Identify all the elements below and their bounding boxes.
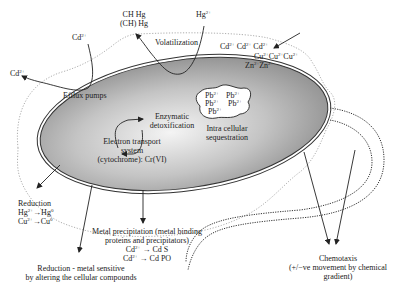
reduction-sensitive-line2: by altering the cellular compounds <box>18 273 144 282</box>
zn-ion: Zn <box>259 61 268 70</box>
ion-charge: 2+ <box>135 245 140 250</box>
metal-ions-row-zn: Zn2+Zn2+ <box>245 61 273 70</box>
cd-symbol: Cd <box>10 69 19 78</box>
ion-charge: 2+ <box>234 91 239 96</box>
ets-line3: (cytochrome): Cr(VI) <box>92 155 172 164</box>
ets-line2: system <box>92 146 172 155</box>
chemotaxis-line2: (+/−ve movement by chemical <box>286 263 390 272</box>
cu-symbol: Cu <box>18 217 27 226</box>
chemotaxis-line1: Chemotaxis <box>286 254 390 263</box>
cd-efflux-output-label: Cd2+ <box>10 69 25 78</box>
precipitation-cds-equation: Cd2+ → Cd S <box>92 245 202 254</box>
metal-ions-row-cu: Cu2+Cu2+Cu2+ <box>254 52 298 61</box>
pb-ion: Pb2+ <box>228 99 242 108</box>
intracellular-sequestration-label: Intra cellular sequestration <box>196 124 258 142</box>
chemotaxis-arrow-left <box>304 152 329 244</box>
precipitation-line2: proteins and precipitators) <box>92 236 202 245</box>
ion-charge: 2+ <box>229 42 234 47</box>
reaction-arrow: → <box>33 208 41 217</box>
precipitation-line1: Metal precipitation (metal binding <box>92 227 202 236</box>
hg-symbol: Hg <box>196 10 206 19</box>
cu-ion: Cu <box>269 52 278 61</box>
metal-precipitation-label: Metal precipitation (metal binding prote… <box>92 227 202 263</box>
ets-line1: Electron transport <box>92 137 172 146</box>
ion-charge: 2+ <box>268 61 273 66</box>
cd-charge: 2+ <box>19 69 24 74</box>
ion-charge: 2+ <box>236 99 241 104</box>
cu-ion: Cu <box>283 52 292 61</box>
cdpo-product: Cd PO <box>150 254 172 263</box>
ion-charge: 2+ <box>293 52 298 57</box>
reduction-label: Reduction Hg2+→Hg0 Cu2+→Cu0 <box>18 199 53 226</box>
hg-charge: 2+ <box>206 10 211 15</box>
pb-ion: Pb2+ <box>208 107 222 116</box>
hg-symbol: Hg <box>18 208 28 217</box>
ion-charge: 0 <box>50 217 53 222</box>
cu-ion: Cu <box>254 52 263 61</box>
ion-charge: 2+ <box>246 42 251 47</box>
cu-symbol: Cu <box>41 217 50 226</box>
cd-ion: Cd <box>220 42 229 51</box>
reaction-arrow: → <box>142 245 150 254</box>
metal-ions-row-cd: Cd2+ Cd2+ Cd2+ <box>220 42 268 51</box>
ion-charge: 2+ <box>213 99 218 104</box>
efflux-pump-path <box>22 44 93 90</box>
reaction-arrow: → <box>140 254 148 263</box>
precipitation-cdpo-equation: Cd2+ → Cd PO <box>92 254 202 263</box>
reduction-title: Reduction <box>18 199 53 208</box>
cd-charge: 2+ <box>81 33 86 38</box>
cd-ion: Cd <box>237 42 246 51</box>
volatilization-label: Volatilization <box>155 38 198 47</box>
methylmercury-line1: CH Hg <box>112 10 156 19</box>
reaction-arrow: → <box>33 217 41 226</box>
reduction-sensitive-line1: Reduction - metal sensitive <box>18 264 144 273</box>
cd-efflux-input-label: Cd2+ <box>72 33 87 42</box>
efflux-pumps-label: Efflux pumps <box>63 91 107 100</box>
chemotaxis-line3: gradient) <box>286 272 390 281</box>
reduction-metal-sensitive-label: Reduction - metal sensitive by altering … <box>18 264 144 282</box>
sequestration-line2: sequestration <box>196 133 258 142</box>
electron-transport-label: Electron transport system (cytochrome): … <box>92 137 172 164</box>
ion-charge: 2+ <box>213 91 218 96</box>
reduction-cu-equation: Cu2+→Cu0 <box>18 217 53 226</box>
enzymatic-line2: detoxification <box>140 121 204 130</box>
cd-symbol: Cd <box>126 245 135 254</box>
enzymatic-line1: Enzymatic <box>140 112 204 121</box>
reduction-sensitive-arrow <box>79 185 92 252</box>
hg-input-label: Hg2+ <box>196 10 211 19</box>
hg-symbol: Hg <box>41 208 51 217</box>
reduction-hg-equation: Hg2+→Hg0 <box>18 208 53 217</box>
chemotaxis-label: Chemotaxis (+/−ve movement by chemical g… <box>286 254 390 281</box>
enzymatic-detoxification-label: Enzymatic detoxification <box>140 112 204 130</box>
metal-resistance-diagram: CH Hg (CH) Hg Hg2+ Volatilization Cd2+ C… <box>0 0 397 293</box>
cds-product: Cd S <box>152 245 168 254</box>
cd-symbol: Cd <box>72 33 81 42</box>
ion-charge: 2+ <box>263 42 268 47</box>
ion-charge: 0 <box>51 208 54 213</box>
ion-charge: 2+ <box>132 254 137 259</box>
methylmercury-line2: (CH) Hg <box>112 19 156 28</box>
sequestration-line1: Intra cellular <box>196 124 258 133</box>
cd-symbol: Cd <box>123 254 132 263</box>
ion-charge: 2+ <box>216 107 221 112</box>
zn-ion: Zn <box>245 61 254 70</box>
chemotaxis-arrow-right <box>336 150 355 244</box>
methylmercury-label: CH Hg (CH) Hg <box>112 10 156 28</box>
cd-ion: Cd <box>253 42 262 51</box>
reduction-arrow <box>37 165 60 188</box>
